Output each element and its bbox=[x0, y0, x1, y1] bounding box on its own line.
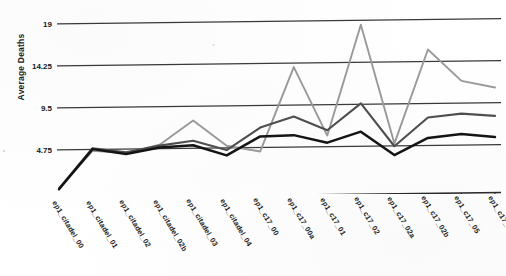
series-line-2 bbox=[59, 132, 495, 190]
x-tick-label-12: ep1_c17_05 bbox=[453, 194, 483, 235]
x-tick-label-0: ep1_citadel_00 bbox=[50, 199, 86, 250]
y-tick-label-3: 19 bbox=[43, 20, 52, 29]
x-tick-label-8: ep1_c17_01 bbox=[319, 196, 349, 237]
x-tick-label-9: ep1_c17_02 bbox=[352, 195, 382, 236]
y-tick-label-1: 9.5 bbox=[41, 104, 52, 113]
gridline-y-2 bbox=[57, 61, 501, 67]
scan-speck bbox=[3, 150, 5, 152]
x-tick-label-2: ep1_citadel_02 bbox=[117, 198, 153, 249]
y-axis-tick-labels: 4.759.514.2519 bbox=[0, 14, 52, 194]
gridline-y-3 bbox=[57, 19, 501, 25]
x-tick-label-4: ep1_citadel_03 bbox=[184, 197, 220, 248]
y-tick-label-2: 14.25 bbox=[32, 62, 52, 71]
x-tick-label-5: ep1_citadel_04 bbox=[218, 197, 254, 248]
line-chart-svg bbox=[57, 14, 501, 194]
x-axis-tick-labels: ep1_citadel_00ep1_citadel_01ep1_citadel_… bbox=[57, 193, 506, 276]
plot-area bbox=[57, 14, 501, 194]
x-tick-label-11: ep1_c17_02b bbox=[419, 194, 451, 239]
x-tick-label-7: ep1_c17_00a bbox=[285, 196, 317, 241]
x-tick-label-6: ep1_c17_00 bbox=[252, 196, 282, 237]
y-tick-label-0: 4.75 bbox=[36, 146, 52, 155]
x-tick-label-3: ep1_citadel_02b bbox=[151, 198, 189, 253]
x-tick-label-13: ep1_c17_06 bbox=[486, 194, 506, 235]
x-tick-label-1: ep1_citadel_01 bbox=[84, 199, 120, 250]
scan-speck bbox=[300, 210, 302, 212]
gridline-y-0 bbox=[57, 145, 501, 151]
x-tick-label-10: ep1_c17_02a bbox=[386, 195, 418, 240]
scan-speck bbox=[212, 44, 215, 46]
chart-root: Average Deaths 4.759.514.2519 ep1_citade… bbox=[0, 0, 506, 276]
